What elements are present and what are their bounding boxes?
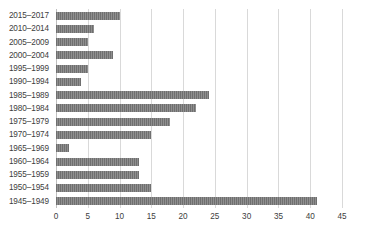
y-axis-label: 1985–1989 [0, 89, 52, 102]
bar-row [56, 62, 342, 75]
bar [56, 12, 120, 20]
bar-row [56, 181, 342, 194]
y-axis-label: 2005–2009 [0, 36, 52, 49]
bar-row [56, 9, 342, 22]
bar [56, 78, 81, 86]
bar-row [56, 168, 342, 181]
y-axis-label: 2010–2014 [0, 22, 52, 35]
y-axis-category-labels: 2015–20172010–20142005–20092000–20041995… [0, 9, 52, 208]
bar-row [56, 75, 342, 88]
bar [56, 91, 209, 99]
bar-row [56, 36, 342, 49]
x-axis-tick-label-45: 45 [337, 212, 346, 221]
bar [56, 144, 69, 152]
x-axis-tick-label-25: 25 [210, 212, 219, 221]
x-axis-tick-label-15: 15 [147, 212, 156, 221]
y-axis-label: 2015–2017 [0, 9, 52, 22]
y-axis-label: 2000–2004 [0, 49, 52, 62]
bar-row [56, 89, 342, 102]
y-axis-label: 1995–1999 [0, 62, 52, 75]
bar [56, 38, 88, 46]
cut-off-title-remnant [0, 0, 379, 6]
x-axis-tick-labels: 051015202530354045 [56, 212, 342, 228]
x-axis-tick-label-0: 0 [54, 212, 59, 221]
x-axis-tick-label-10: 10 [115, 212, 124, 221]
bar [56, 184, 151, 192]
bar-row [56, 115, 342, 128]
bar-row [56, 49, 342, 62]
y-axis-label: 1980–1984 [0, 102, 52, 115]
bar-row [56, 22, 342, 35]
bar [56, 51, 113, 59]
x-axis-tick-label-40: 40 [306, 212, 315, 221]
x-axis-tick-label-20: 20 [179, 212, 188, 221]
plot-area [56, 9, 342, 208]
x-axis-tick-label-5: 5 [85, 212, 90, 221]
gridline-45 [342, 9, 343, 208]
bar [56, 158, 139, 166]
bar-row [56, 142, 342, 155]
bar-row [56, 102, 342, 115]
y-axis-label: 1945–1949 [0, 195, 52, 208]
bar-chart: 2015–20172010–20142005–20092000–20041995… [0, 0, 379, 235]
y-axis-label: 1960–1964 [0, 155, 52, 168]
x-axis-tick-label-30: 30 [242, 212, 251, 221]
y-axis-label: 1965–1969 [0, 142, 52, 155]
bar [56, 197, 317, 205]
bar [56, 25, 94, 33]
bar [56, 104, 196, 112]
x-axis-tick-label-35: 35 [274, 212, 283, 221]
y-axis-label: 1990–1994 [0, 75, 52, 88]
bar-series [56, 9, 342, 208]
bar [56, 171, 139, 179]
bar-row [56, 128, 342, 141]
bar [56, 131, 151, 139]
bar [56, 118, 170, 126]
y-axis-label: 1970–1974 [0, 128, 52, 141]
y-axis-label: 1955–1959 [0, 168, 52, 181]
bar [56, 65, 88, 73]
bar-row [56, 195, 342, 208]
bar-row [56, 155, 342, 168]
y-axis-label: 1975–1979 [0, 115, 52, 128]
y-axis-label: 1950–1954 [0, 181, 52, 194]
